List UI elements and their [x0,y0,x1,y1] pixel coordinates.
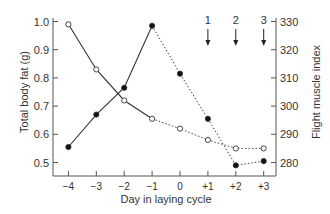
series-line-dotted [152,119,264,149]
annotation-label: 1 [205,14,211,26]
y-tick-label-left: 1.0 [34,16,49,28]
y-tick-label-left: 0.9 [34,44,49,56]
filled-circle-marker [261,158,266,163]
y-tick-label-right: 310 [280,72,298,84]
filled-circle-marker [122,85,127,90]
x-tick-label: −1 [146,181,158,192]
open-circle-marker [205,137,210,142]
y-tick-label-left: 0.8 [34,72,49,84]
arrowhead-icon [261,40,266,46]
y-axis-label-right: Flight muscle index [310,44,322,139]
open-circle-marker [233,146,238,151]
annotations: 123 [205,14,267,46]
filled-circle-marker [66,144,71,149]
y-tick-label-left: 0.5 [34,157,49,169]
x-tick-label: −4 [63,181,75,192]
filled-circle-marker [233,163,238,168]
filled-circle-marker [205,116,210,121]
open-circle-marker [261,146,266,151]
x-tick-label: +3 [258,181,270,192]
y-tick-label-right: 300 [280,100,298,112]
filled-circle-marker [150,23,155,28]
filled-circle-marker [94,112,99,117]
y-tick-label-right: 290 [280,128,298,140]
x-axis-label: Day in laying cycle [120,193,211,205]
x-tick-label: +1 [202,181,214,192]
open-circle-marker [150,116,155,121]
series-line-dotted [152,26,264,166]
y-tick-label-right: 330 [280,16,298,28]
y-tick-label-right: 320 [280,44,298,56]
y-axis-label-left: Total body fat (g) [18,51,30,133]
open-circle-marker [122,98,127,103]
arrowhead-icon [233,40,238,46]
open-circle-marker [94,67,99,72]
open-circle-marker [66,22,71,27]
x-tick-label: +2 [230,181,242,192]
x-tick-label: −2 [118,181,130,192]
series-line-solid [68,24,152,118]
x-tick-label: −3 [91,181,103,192]
annotation-label: 3 [261,14,267,26]
x-tick-label: 0 [177,181,183,192]
y-tick-label-right: 280 [280,157,298,169]
arrowhead-icon [205,40,210,46]
annotation-label: 2 [233,14,239,26]
y-tick-label-left: 0.7 [34,100,49,112]
y-tick-label-left: 0.6 [34,128,49,140]
dual-axis-line-chart: 0.50.60.70.80.91.0280290300310320330−4−3… [0,0,330,214]
open-circle-marker [177,126,182,131]
axes: 0.50.60.70.80.91.0280290300310320330−4−3… [34,16,299,193]
filled-circle-marker [177,71,182,76]
